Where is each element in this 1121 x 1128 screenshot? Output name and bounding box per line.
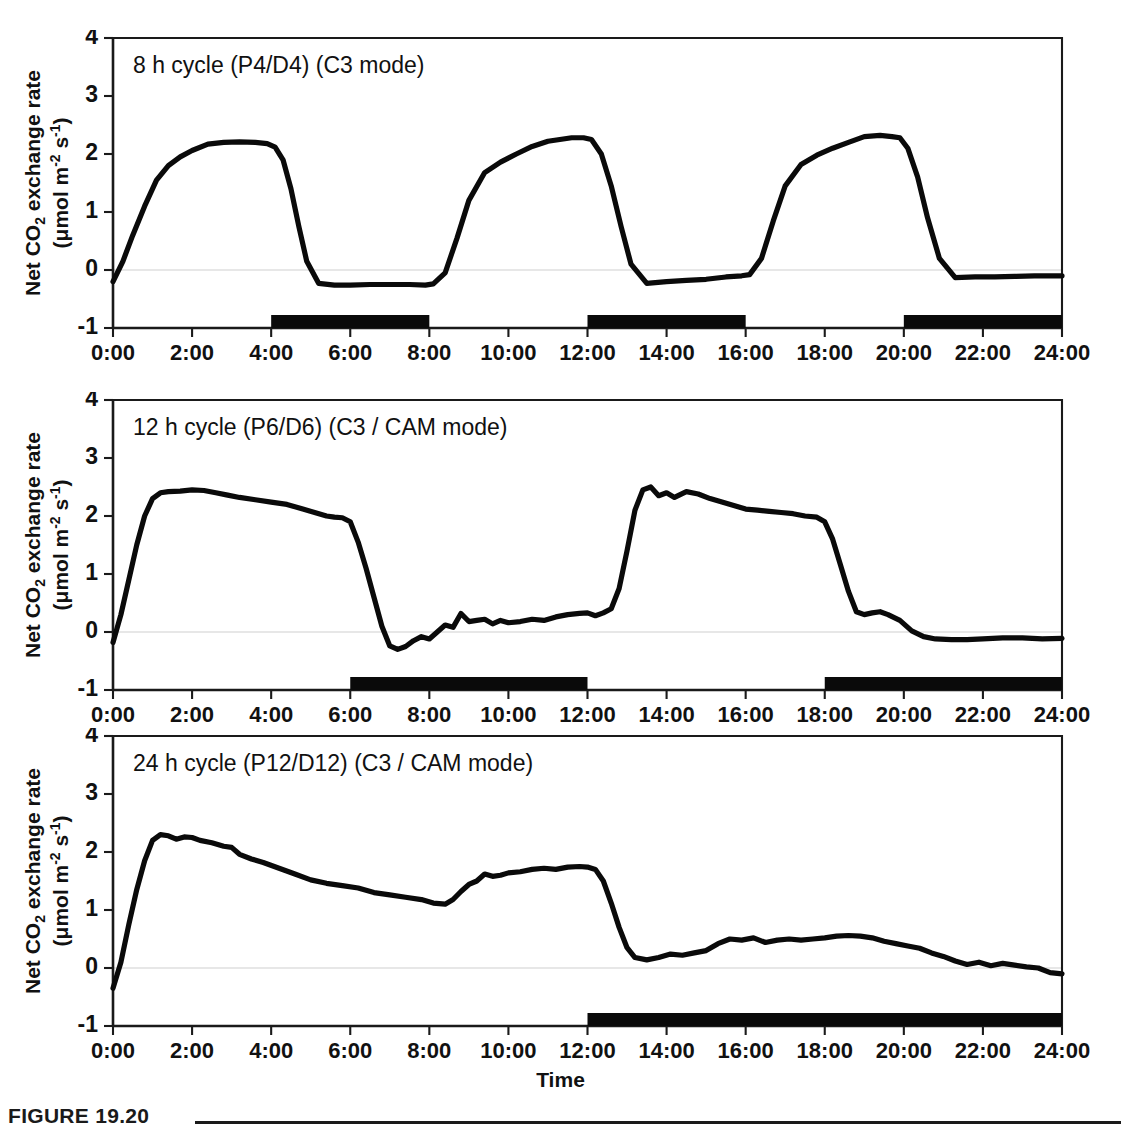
y-tick-label: 0 bbox=[85, 255, 98, 281]
y-axis-title: Net CO2 exchange rate(μmol m-2 s-1) bbox=[22, 736, 68, 1026]
dark-period-bar-1 bbox=[825, 677, 1062, 690]
y-tick-label: 3 bbox=[85, 443, 98, 469]
x-tick-label: 4:00 bbox=[249, 340, 293, 365]
y-tick-label: 3 bbox=[85, 81, 98, 107]
dark-period-bar-0 bbox=[350, 677, 587, 690]
y-axis-title: Net CO2 exchange rate(μmol m-2 s-1) bbox=[22, 400, 68, 690]
x-tick-label: 14:00 bbox=[638, 340, 694, 365]
y-tick-label: 1 bbox=[85, 197, 98, 223]
x-tick-label: 2:00 bbox=[170, 340, 214, 365]
chart-plot-0: 43210-10:002:004:006:008:0010:0012:0014:… bbox=[0, 30, 1121, 370]
x-tick-label: 20:00 bbox=[876, 340, 932, 365]
y-tick-label: 0 bbox=[85, 617, 98, 643]
x-tick-label: 22:00 bbox=[955, 702, 1011, 727]
chart-panel-2: 43210-10:002:004:006:008:0010:0012:0014:… bbox=[0, 728, 1121, 1068]
x-tick-label: 24:00 bbox=[1034, 340, 1090, 365]
x-tick-label: 22:00 bbox=[955, 340, 1011, 365]
dark-period-bar-1 bbox=[588, 315, 746, 328]
x-tick-label: 8:00 bbox=[407, 702, 451, 727]
x-tick-label: 8:00 bbox=[407, 1038, 451, 1063]
x-tick-label: 2:00 bbox=[170, 1038, 214, 1063]
x-tick-label: 24:00 bbox=[1034, 1038, 1090, 1063]
x-tick-label: 0:00 bbox=[91, 702, 135, 727]
y-tick-label: -1 bbox=[78, 1011, 99, 1037]
y-tick-label: 4 bbox=[85, 728, 98, 747]
y-tick-label: 3 bbox=[85, 779, 98, 805]
y-tick-label: 2 bbox=[85, 139, 98, 165]
x-tick-label: 10:00 bbox=[480, 702, 536, 727]
chart-panel-0: 43210-10:002:004:006:008:0010:0012:0014:… bbox=[0, 30, 1121, 370]
y-tick-label: 4 bbox=[85, 392, 98, 411]
x-tick-label: 20:00 bbox=[876, 702, 932, 727]
x-tick-label: 6:00 bbox=[328, 1038, 372, 1063]
dark-period-bar-0 bbox=[588, 1013, 1063, 1026]
y-tick-label: 4 bbox=[85, 30, 98, 49]
x-tick-label: 18:00 bbox=[797, 702, 853, 727]
x-tick-label: 10:00 bbox=[480, 340, 536, 365]
y-tick-label: 1 bbox=[85, 895, 98, 921]
x-tick-label: 18:00 bbox=[797, 340, 853, 365]
data-series-line bbox=[113, 487, 1062, 649]
x-tick-label: 12:00 bbox=[559, 340, 615, 365]
y-tick-label: 0 bbox=[85, 953, 98, 979]
figure-caption-label: FIGURE 19.20 bbox=[8, 1104, 149, 1128]
panel-title-annotation: 8 h cycle (P4/D4) (C3 mode) bbox=[133, 52, 424, 78]
plot-frame bbox=[113, 736, 1062, 1026]
x-tick-label: 12:00 bbox=[559, 702, 615, 727]
dark-period-bar-0 bbox=[271, 315, 429, 328]
x-tick-label: 16:00 bbox=[718, 340, 774, 365]
x-tick-label: 16:00 bbox=[718, 1038, 774, 1063]
x-tick-label: 18:00 bbox=[797, 1038, 853, 1063]
panel-title-annotation: 12 h cycle (P6/D6) (C3 / CAM mode) bbox=[133, 414, 508, 440]
y-tick-label: -1 bbox=[78, 313, 99, 339]
panel-title-annotation: 24 h cycle (P12/D12) (C3 / CAM mode) bbox=[133, 750, 533, 776]
x-tick-label: 8:00 bbox=[407, 340, 451, 365]
x-tick-label: 24:00 bbox=[1034, 702, 1090, 727]
x-tick-label: 10:00 bbox=[480, 1038, 536, 1063]
x-tick-label: 16:00 bbox=[718, 702, 774, 727]
chart-panel-1: 43210-10:002:004:006:008:0010:0012:0014:… bbox=[0, 392, 1121, 732]
y-tick-label: 1 bbox=[85, 559, 98, 585]
figure-container: 43210-10:002:004:006:008:0010:0012:0014:… bbox=[0, 0, 1121, 1128]
x-tick-label: 6:00 bbox=[328, 340, 372, 365]
y-tick-label: 2 bbox=[85, 501, 98, 527]
y-tick-label: 2 bbox=[85, 837, 98, 863]
y-axis-title: Net CO2 exchange rate(μmol m-2 s-1) bbox=[22, 38, 68, 328]
x-tick-label: 14:00 bbox=[638, 1038, 694, 1063]
data-series-line bbox=[113, 835, 1062, 989]
x-tick-label: 14:00 bbox=[638, 702, 694, 727]
x-tick-label: 2:00 bbox=[170, 702, 214, 727]
y-tick-label: -1 bbox=[78, 675, 99, 701]
chart-plot-1: 43210-10:002:004:006:008:0010:0012:0014:… bbox=[0, 392, 1121, 732]
x-tick-label: 4:00 bbox=[249, 702, 293, 727]
chart-plot-2: 43210-10:002:004:006:008:0010:0012:0014:… bbox=[0, 728, 1121, 1068]
data-series-line bbox=[113, 135, 1062, 285]
x-tick-label: 0:00 bbox=[91, 340, 135, 365]
x-tick-label: 4:00 bbox=[249, 1038, 293, 1063]
x-tick-label: 6:00 bbox=[328, 702, 372, 727]
x-tick-label: 12:00 bbox=[559, 1038, 615, 1063]
dark-period-bar-2 bbox=[904, 315, 1062, 328]
x-tick-label: 20:00 bbox=[876, 1038, 932, 1063]
x-tick-label: 22:00 bbox=[955, 1038, 1011, 1063]
plot-frame bbox=[113, 400, 1062, 690]
caption-divider bbox=[195, 1121, 1121, 1124]
x-tick-label: 0:00 bbox=[91, 1038, 135, 1063]
x-axis-title: Time bbox=[0, 1068, 1121, 1092]
